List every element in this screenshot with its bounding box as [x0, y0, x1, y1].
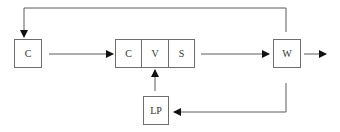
cvs-cell-c: C: [116, 40, 142, 67]
node-c-left: C: [14, 39, 42, 68]
cvs-cell-s: S: [169, 40, 194, 67]
arrow-w-to-lp: [174, 83, 286, 112]
cvs-cell-c-label: C: [125, 48, 132, 59]
node-w: W: [273, 39, 301, 68]
cvs-cell-s-label: S: [179, 48, 185, 59]
node-c-left-label: C: [25, 48, 32, 59]
node-cvs: C V S: [115, 39, 195, 68]
node-lp-label: LP: [150, 105, 162, 116]
arrow-feedback-top: [24, 8, 286, 37]
cvs-cell-v: V: [142, 40, 169, 67]
cvs-cell-v-label: V: [151, 48, 158, 59]
node-lp: LP: [143, 96, 169, 125]
node-w-label: W: [282, 48, 291, 59]
